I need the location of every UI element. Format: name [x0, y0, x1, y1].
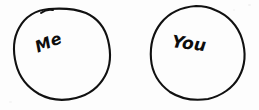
- label-you: You: [171, 33, 207, 54]
- circle-me-outline: [14, 9, 110, 100]
- circle-me-group: [14, 9, 110, 100]
- sketch-canvas: Me You: [0, 0, 259, 110]
